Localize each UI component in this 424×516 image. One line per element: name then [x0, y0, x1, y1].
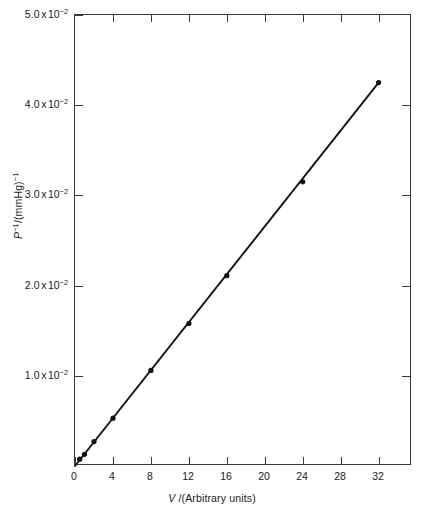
y-tick-4e-2: [75, 105, 83, 106]
data-point: [376, 80, 381, 85]
x-tick-label-12: 12: [182, 470, 194, 482]
y-tick-2e-2: [75, 286, 83, 287]
x-tick-top-28: [341, 15, 342, 22]
y-tick-times: x: [40, 279, 48, 291]
y-tick-times: x: [40, 188, 48, 200]
x-tick-top-12: [189, 15, 190, 22]
y-tick-times: x: [40, 98, 48, 110]
y-tick-mantissa: 2.0: [25, 279, 40, 291]
x-tick-label-0: 0: [71, 470, 77, 482]
y-axis-title: P−1/(mmHg)−1: [12, 172, 24, 239]
y-tick-mantissa: 3.0: [25, 188, 40, 200]
x-axis-title: V /(Arbitrary units): [0, 492, 424, 504]
y-tick-label-1e-2: 1.0x10−2: [8, 369, 68, 381]
x-tick-4: [113, 457, 114, 464]
y-tick-right-1e-2: [402, 376, 410, 377]
y-tick-base: 10: [48, 188, 60, 200]
data-point: [224, 273, 229, 278]
x-tick-label-8: 8: [147, 470, 153, 482]
x-tick-20: [265, 457, 266, 464]
x-tick-label-4: 4: [109, 470, 115, 482]
x-tick-label-24: 24: [296, 470, 308, 482]
x-tick-label-28: 28: [334, 470, 346, 482]
y-tick-base: 10: [48, 279, 60, 291]
x-tick-12: [189, 457, 190, 464]
y-tick-right-3e-2: [402, 195, 410, 196]
x-tick-label-20: 20: [258, 470, 270, 482]
data-point: [186, 321, 191, 326]
plot-area: [74, 14, 411, 465]
x-tick-28: [341, 457, 342, 464]
x-tick-label-32: 32: [372, 470, 384, 482]
y-tick-times: x: [40, 369, 48, 381]
data-point: [91, 439, 96, 444]
data-point: [77, 457, 82, 462]
x-tick-top-4: [113, 15, 114, 22]
y-tick-3e-2: [75, 195, 83, 196]
y-tick-exponent: −2: [60, 187, 68, 196]
x-tick-top-16: [227, 15, 228, 22]
x-tick-top-32: [379, 15, 380, 22]
y-tick-label-3e-2: 3.0x10−2: [8, 188, 68, 200]
x-axis-symbol: V: [168, 492, 175, 504]
x-tick-0: [75, 457, 76, 464]
y-tick-exponent: −2: [60, 97, 68, 106]
y-tick-5e-2: [75, 15, 83, 16]
y-tick-label-5e-2: 5.0x10−2: [8, 8, 68, 20]
x-tick-24: [303, 457, 304, 464]
y-tick-base: 10: [48, 369, 60, 381]
y-tick-exponent: −2: [60, 368, 68, 377]
y-tick-exponent: −2: [60, 7, 68, 16]
x-tick-top-8: [151, 15, 152, 22]
data-layer: [75, 15, 412, 466]
y-tick-1e-2: [75, 376, 83, 377]
y-tick-base: 10: [48, 8, 60, 20]
data-point: [110, 416, 115, 421]
y-tick-times: x: [40, 8, 48, 20]
data-point: [300, 179, 305, 184]
chart-figure: P−1/(mmHg)−1: [0, 0, 424, 516]
x-tick-top-24: [303, 15, 304, 22]
x-axis-units: /(Arbitrary units): [178, 492, 255, 504]
x-tick-top-20: [265, 15, 266, 22]
y-tick-right-4e-2: [402, 105, 410, 106]
data-point: [148, 368, 153, 373]
y-tick-right-2e-2: [402, 286, 410, 287]
x-tick-16: [227, 457, 228, 464]
x-tick-label-16: 16: [220, 470, 232, 482]
y-tick-exponent: −2: [60, 278, 68, 287]
x-tick-8: [151, 457, 152, 464]
data-point: [82, 452, 87, 457]
y-tick-label-4e-2: 4.0x10−2: [8, 98, 68, 110]
y-tick-base: 10: [48, 98, 60, 110]
y-tick-label-2e-2: 2.0x10−2: [8, 279, 68, 291]
y-tick-mantissa: 1.0: [25, 369, 40, 381]
y-tick-mantissa: 4.0: [25, 98, 40, 110]
y-tick-mantissa: 5.0: [25, 8, 40, 20]
x-tick-32: [379, 457, 380, 464]
